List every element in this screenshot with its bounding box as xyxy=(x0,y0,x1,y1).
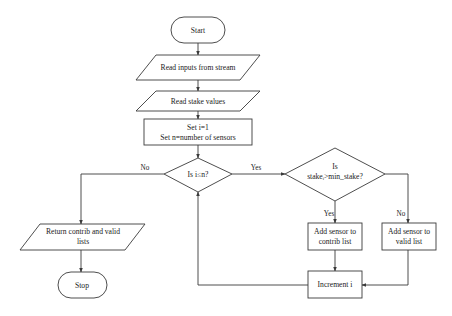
edge-increment-loopback xyxy=(198,192,308,285)
stake-yes-label: Yes xyxy=(324,210,335,218)
loop-no-label: No xyxy=(141,164,150,172)
add-contrib-label-line2: contrib list xyxy=(319,237,353,246)
stake-no-label: No xyxy=(397,210,406,218)
edge-valid-to-increment xyxy=(362,250,408,285)
start-label: Start xyxy=(191,26,206,35)
add-valid-label-line2: valid list xyxy=(396,237,423,246)
edge-loop-no xyxy=(81,174,164,224)
increment-label: Increment i xyxy=(318,280,353,289)
stake-check-label-line2: stakeᵢ>min_stake? xyxy=(307,172,363,181)
loop-yes-label: Yes xyxy=(251,164,262,172)
add-valid-label-line1: Add sensor to xyxy=(388,227,430,236)
read-stake-label: Read stake values xyxy=(171,97,225,106)
stop-label: Stop xyxy=(75,281,89,290)
init-label-line1: Set i=1 xyxy=(187,123,209,132)
read-inputs-label: Read inputs from stream xyxy=(161,63,236,72)
loop-check-label: Is i≤n? xyxy=(188,170,209,179)
return-lists-label-line2: lists xyxy=(77,237,89,246)
return-lists-label-line1: Return contrib and valid xyxy=(46,227,120,236)
flowchart-canvas: Start Read inputs from stream Read stake… xyxy=(0,0,452,316)
stake-check-label-line1: Is xyxy=(332,162,338,171)
add-contrib-label-line1: Add sensor to xyxy=(314,227,356,236)
init-label-line2: Set n=number of sensors xyxy=(160,133,235,142)
nodes xyxy=(20,17,436,298)
